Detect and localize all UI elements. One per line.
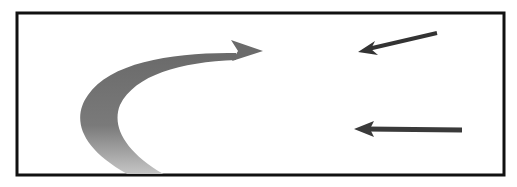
diagram-canvas [0, 0, 517, 187]
